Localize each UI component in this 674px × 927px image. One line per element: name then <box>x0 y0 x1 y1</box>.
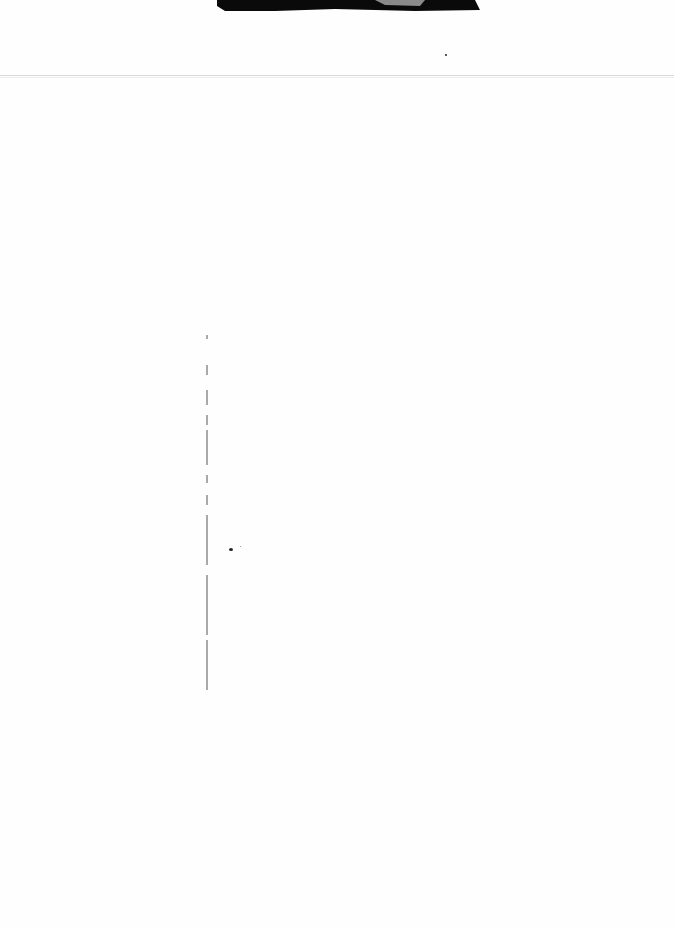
scanned-page <box>0 0 674 927</box>
dust-speck <box>445 54 447 56</box>
ink-speck <box>229 548 233 551</box>
vertical-dashed-line <box>206 335 208 690</box>
ink-smudge <box>215 0 480 14</box>
horizontal-rule <box>0 75 674 76</box>
horizontal-rule-shadow <box>0 77 674 78</box>
dust-speck <box>240 546 241 547</box>
